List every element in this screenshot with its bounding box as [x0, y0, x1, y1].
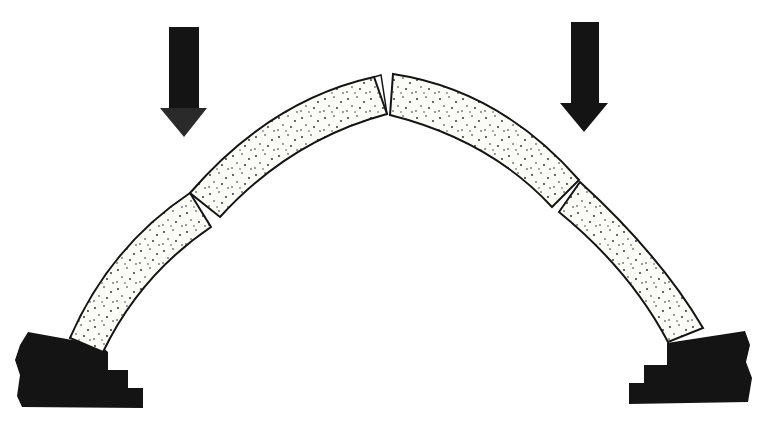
voussoir-right-upper: [390, 74, 579, 207]
right-load-arrow-icon: [560, 22, 608, 132]
right-abutment: [629, 331, 752, 404]
arch-diagram: [0, 0, 771, 422]
left-abutment: [15, 332, 143, 408]
left-load-arrow-icon: [160, 27, 207, 137]
voussoir-right-lower: [559, 182, 703, 342]
voussoir-left-upper: [190, 77, 387, 217]
voussoir-left-lower: [70, 193, 211, 352]
